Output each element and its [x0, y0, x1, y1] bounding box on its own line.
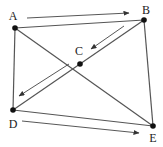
node-label-c: C: [75, 44, 83, 58]
arrow-c-to-d-icon: [19, 64, 69, 96]
node-label-b: B: [142, 3, 150, 17]
edge-a-d: [13, 28, 15, 110]
edge-a-e: [15, 28, 153, 126]
edge-d-e: [13, 110, 153, 126]
node-d: [10, 107, 16, 113]
edge-a-b: [15, 20, 144, 28]
arrow-a-to-b-icon: [27, 13, 129, 18]
node-label-e: E: [149, 131, 156, 145]
edges-group: [13, 20, 153, 126]
graph-diagram: ABCDE: [0, 0, 163, 147]
node-label-d: D: [9, 117, 18, 131]
node-b: [141, 17, 147, 23]
node-label-a: A: [9, 9, 18, 23]
edge-b-e: [144, 20, 153, 126]
node-a: [12, 25, 18, 31]
node-e: [150, 123, 156, 129]
node-c: [77, 61, 83, 67]
